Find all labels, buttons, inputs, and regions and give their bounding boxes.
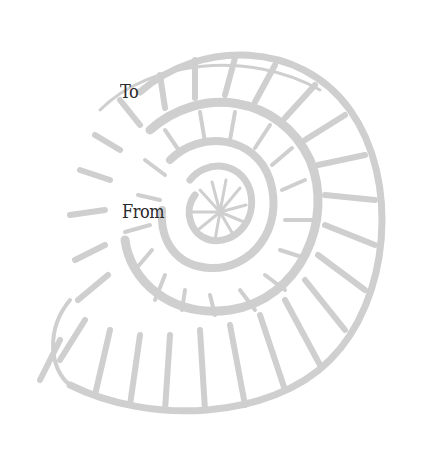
from-label: From: [122, 200, 164, 222]
ammonite-shell-illustration: [0, 0, 428, 451]
to-label: To: [120, 80, 138, 102]
